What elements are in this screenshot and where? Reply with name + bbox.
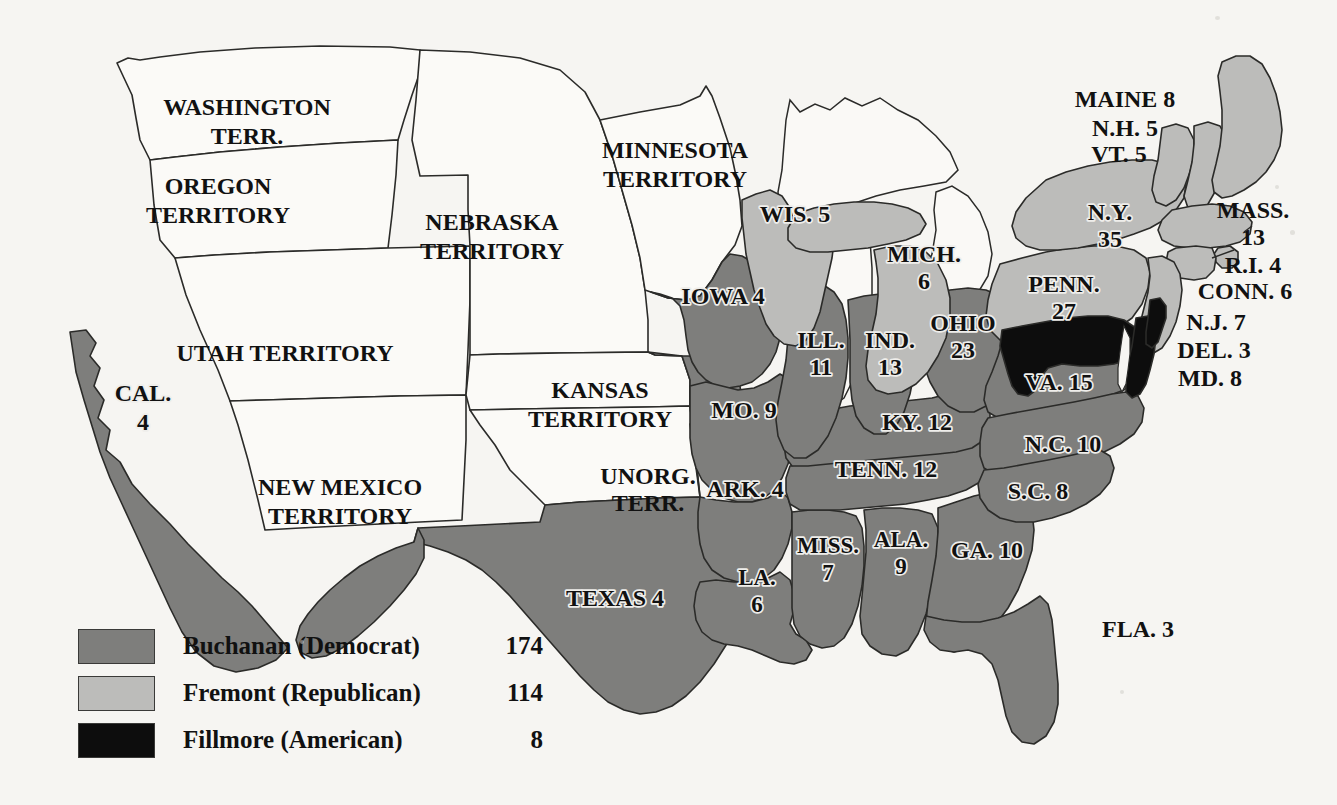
label-south-carolina: S.C. 8 (1008, 478, 1069, 504)
label-mississippi-line2: 7 (822, 560, 834, 585)
legend-votes-buchanan: 174 (483, 632, 543, 660)
label-kentucky: KY. 12 (882, 409, 952, 435)
legend-row-fillmore[interactable]: Fillmore (American) 8 (78, 722, 598, 758)
legend-row-fremont[interactable]: Fremont (Republican) 114 (78, 675, 598, 711)
label-kansas-territory-line1: KANSAS (551, 377, 648, 403)
legend: Buchanan (Democrat) 174 Fremont (Republi… (78, 628, 598, 769)
label-alabama-line1: ALA. (874, 527, 928, 552)
state-oregon-territory[interactable] (150, 140, 398, 258)
label-indiana-line2: 13 (878, 354, 902, 380)
legend-label-buchanan: Buchanan (Democrat) (183, 632, 483, 660)
label-nebraska-territory-line2: TERRITORY (420, 238, 564, 264)
callout-new-jersey: N.J. 7 (1186, 309, 1245, 335)
callout-maine: MAINE 8 (1075, 86, 1176, 112)
label-california-line1: CAL. (115, 380, 172, 406)
electoral-map: .st{stroke:#2b2b29;stroke-width:1.6;stro… (0, 0, 1337, 805)
label-nebraska-territory-line1: NEBRASKA (425, 209, 559, 235)
state-maine[interactable] (1212, 56, 1282, 198)
fillmore-swatch (78, 723, 155, 758)
label-iowa: IOWA 4 (681, 283, 764, 309)
label-louisiana-line1: LA. (738, 565, 776, 590)
label-ohio-line1: OHIO (930, 310, 995, 336)
label-tennessee: TENN. 12 (835, 456, 938, 482)
label-missouri: MO. 9 (711, 397, 776, 423)
label-north-carolina: N.C. 10 (1025, 431, 1102, 457)
paper-speck (1120, 690, 1124, 694)
label-new-york-line1: N.Y. (1088, 199, 1132, 225)
label-indiana-line1: IND. (865, 327, 915, 353)
callout-connecticut: CONN. 6 (1198, 278, 1293, 304)
label-oregon-territory-line1: OREGON (165, 173, 272, 199)
label-washington-territory-line2: TERR. (211, 123, 284, 149)
callout-vermont: VT. 5 (1091, 141, 1147, 167)
callout-rhode-island: R.I. 4 (1225, 252, 1282, 278)
label-alabama-line2: 9 (895, 554, 907, 579)
paper-speck (1215, 16, 1220, 20)
label-florida: FLA. 3 (1102, 616, 1174, 642)
label-illinois-line2: 11 (810, 354, 833, 380)
label-kansas-territory-line2: TERRITORY (528, 406, 672, 432)
label-new-mexico-territory-line1: NEW MEXICO (258, 474, 422, 500)
label-illinois-line1: ILL. (797, 327, 844, 353)
label-louisiana-line2: 6 (751, 592, 763, 617)
label-georgia: GA. 10 (951, 537, 1023, 563)
label-mississippi-line1: MISS. (797, 533, 859, 558)
legend-votes-fillmore: 8 (483, 726, 543, 754)
label-unorganized-territory-line1: UNORG. (600, 463, 695, 489)
label-new-york-line2: 35 (1098, 226, 1122, 252)
paper-speck (300, 640, 304, 644)
paper-speck (1290, 230, 1295, 235)
paper-speck (1275, 185, 1279, 189)
label-virginia: VA. 15 (1025, 369, 1093, 395)
label-texas: TEXAS 4 (566, 585, 664, 611)
label-minnesota-territory-line2: TERRITORY (603, 166, 747, 192)
label-washington-territory-line1: WASHINGTON (163, 94, 331, 120)
state-utah-territory[interactable] (175, 246, 470, 401)
label-wisconsin: WIS. 5 (760, 201, 831, 227)
label-utah-territory: UTAH TERRITORY (176, 340, 393, 366)
label-new-mexico-territory-line2: TERRITORY (268, 503, 412, 529)
legend-label-fremont: Fremont (Republican) (183, 679, 483, 707)
callout-new-hampshire: N.H. 5 (1092, 115, 1158, 141)
callout-maryland: MD. 8 (1178, 365, 1242, 391)
callout-massachusetts-line2: 13 (1241, 224, 1265, 250)
label-michigan-line1: MICH. (887, 241, 961, 267)
label-minnesota-territory-line1: MINNESOTA (602, 137, 749, 163)
label-ohio-line2: 23 (951, 337, 975, 363)
label-pennsylvania-line1: PENN. (1028, 271, 1099, 297)
label-unorganized-territory-line2: TERR. (612, 490, 685, 516)
legend-votes-fremont: 114 (483, 679, 543, 707)
label-michigan-line2: 6 (918, 268, 930, 294)
callout-massachusetts-line1: MASS. (1217, 197, 1290, 223)
legend-label-fillmore: Fillmore (American) (183, 726, 483, 754)
label-pennsylvania-line2: 27 (1052, 298, 1076, 324)
fremont-swatch (78, 676, 155, 711)
label-oregon-territory-line2: TERRITORY (146, 202, 290, 228)
callout-delaware: DEL. 3 (1177, 337, 1250, 363)
label-california-line2: 4 (137, 409, 149, 435)
buchanan-swatch (78, 629, 155, 664)
legend-row-buchanan[interactable]: Buchanan (Democrat) 174 (78, 628, 598, 664)
label-arkansas: ARK. 4 (706, 476, 783, 502)
